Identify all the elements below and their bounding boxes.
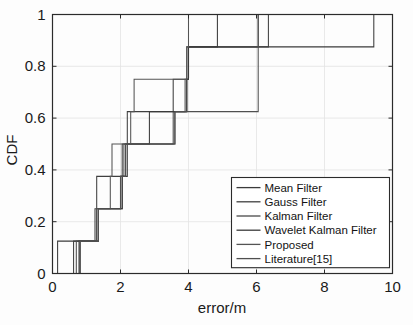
legend-box[interactable]: Mean FilterGauss FilterKalman FilterWave… bbox=[232, 178, 390, 268]
legend-label[interactable]: Gauss Filter bbox=[265, 196, 327, 208]
figure-container: 024681000.20.40.60.81 Mean FilterGauss F… bbox=[0, 0, 413, 325]
legend-label[interactable]: Proposed bbox=[265, 239, 314, 251]
y-axis-title: CDF bbox=[3, 135, 20, 166]
cdf-chart: 024681000.20.40.60.81 Mean FilterGauss F… bbox=[0, 0, 413, 325]
y-tick-label: 0.2 bbox=[25, 213, 46, 230]
legend-label[interactable]: Kalman Filter bbox=[265, 210, 333, 222]
legend-label[interactable]: Literature[15] bbox=[265, 253, 333, 265]
x-axis-title: error/m bbox=[198, 299, 246, 316]
x-tick-label: 0 bbox=[48, 278, 56, 295]
x-tick-label: 6 bbox=[252, 278, 260, 295]
y-tick-label: 0.4 bbox=[25, 161, 46, 178]
y-tick-label: 1 bbox=[37, 6, 45, 23]
x-tick-label: 10 bbox=[384, 278, 401, 295]
x-tick-label: 2 bbox=[116, 278, 124, 295]
x-tick-label: 4 bbox=[184, 278, 192, 295]
y-tick-label: 0 bbox=[37, 265, 45, 282]
legend-label[interactable]: Wavelet Kalman Filter bbox=[265, 224, 377, 236]
y-tick-label: 0.8 bbox=[25, 57, 46, 74]
figure-caption bbox=[14, 317, 410, 325]
y-tick-label: 0.6 bbox=[25, 109, 46, 126]
x-tick-label: 8 bbox=[320, 278, 328, 295]
legend-label[interactable]: Mean Filter bbox=[265, 182, 323, 194]
